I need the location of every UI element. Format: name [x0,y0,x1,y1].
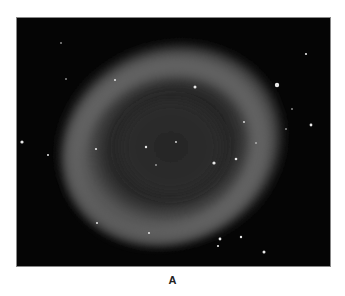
nebula-image [16,17,331,267]
nebula-photograph [16,17,331,267]
figure-label: A [0,274,345,286]
